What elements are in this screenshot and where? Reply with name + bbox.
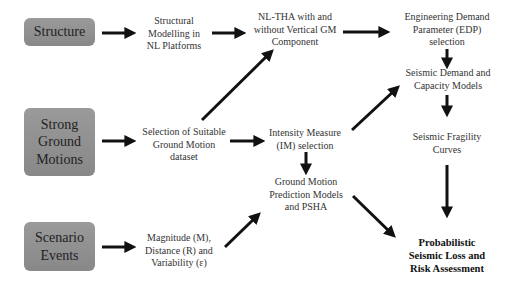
arrow-im-to-demand	[352, 89, 396, 130]
source-label-line: Strong	[41, 116, 78, 134]
node-line: Capacity Models	[406, 80, 491, 93]
arrow-gmpm-to-loss	[353, 196, 392, 234]
node-line: Magnitude (M),	[145, 232, 213, 245]
node-line: Risk Assessment	[409, 262, 485, 275]
node-fragility: Seismic Fragility Curves	[413, 131, 482, 156]
node-gm-dataset: Selection of Suitable Ground Motion data…	[142, 126, 225, 164]
node-line: without Vertical GM	[254, 24, 337, 37]
source-label-line: Ground	[38, 133, 81, 151]
source-label-line: Scenario	[35, 229, 84, 247]
source-box-scenario-events: Scenario Events	[24, 222, 95, 271]
node-line: NL Platforms	[147, 40, 201, 53]
node-line: Seismic Loss and	[409, 249, 485, 262]
source-label: Structure	[34, 23, 85, 41]
node-line: and PSHA	[269, 201, 343, 214]
node-line: Engineering Demand	[404, 11, 489, 24]
node-line: Ground Motion	[269, 176, 343, 189]
node-gmpm-psha: Ground Motion Prediction Models and PSHA	[269, 176, 343, 214]
node-line: Prediction Models	[269, 189, 343, 202]
node-line: selection	[404, 36, 489, 49]
node-edp: Engineering Demand Parameter (EDP) selec…	[404, 11, 489, 49]
node-nltha: NL-THA with and without Vertical GM Comp…	[254, 11, 337, 49]
node-line: Structural	[147, 15, 201, 28]
node-line: Component	[254, 36, 337, 49]
arrow-dataset-to-nltha	[202, 53, 270, 120]
node-line: Modelling in	[147, 28, 201, 41]
node-line: (IM) selection	[269, 140, 341, 153]
node-line: Seismic Fragility	[413, 131, 482, 144]
node-line: Distance (R) and	[145, 245, 213, 258]
node-line: Probabilistic	[409, 236, 485, 249]
node-line: Curves	[413, 144, 482, 157]
node-line: Ground Motion	[142, 139, 225, 152]
node-loss-risk: Probabilistic Seismic Loss and Risk Asse…	[409, 236, 485, 275]
source-label-line: Events	[40, 247, 78, 265]
arrow-magnitude-to-gmpm	[225, 216, 257, 247]
node-line: Seismic Demand and	[406, 67, 491, 80]
node-structural-modelling: Structural Modelling in NL Platforms	[147, 15, 201, 53]
node-line: Parameter (EDP)	[404, 24, 489, 37]
node-line: dataset	[142, 151, 225, 164]
node-line: NL-THA with and	[254, 11, 337, 24]
node-line: Intensity Measure	[269, 127, 341, 140]
source-box-strong-ground-motions: Strong Ground Motions	[24, 108, 95, 176]
node-line: Selection of Suitable	[142, 126, 225, 139]
source-box-structure: Structure	[24, 18, 95, 46]
node-im-selection: Intensity Measure (IM) selection	[269, 127, 341, 152]
source-label-line: Motions	[36, 151, 83, 169]
node-line: Variability (ε)	[145, 257, 213, 270]
node-magnitude: Magnitude (M), Distance (R) and Variabil…	[145, 232, 213, 270]
node-demand-capacity: Seismic Demand and Capacity Models	[406, 67, 491, 92]
